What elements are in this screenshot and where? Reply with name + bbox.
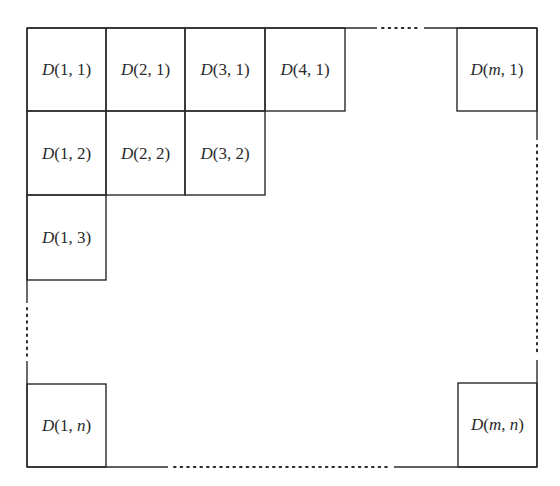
label-D32: D(3, 2) <box>199 144 249 163</box>
label-D1n: D(1, n) <box>41 416 91 435</box>
label-D31: D(3, 1) <box>199 60 249 79</box>
label-D11: D(1, 1) <box>41 60 91 79</box>
label-Dm1: D(m, 1) <box>470 60 524 79</box>
label-D22: D(2, 2) <box>120 144 170 163</box>
label-D12: D(1, 2) <box>41 144 91 163</box>
label-D41: D(4, 1) <box>279 60 329 79</box>
label-D13: D(1, 3) <box>41 228 91 247</box>
grid-partition-diagram: D(1, 1) D(2, 1) D(3, 1) D(4, 1) D(m, 1) … <box>0 0 560 486</box>
label-D21: D(2, 1) <box>120 60 170 79</box>
label-Dmn: D(m, n) <box>470 415 524 434</box>
